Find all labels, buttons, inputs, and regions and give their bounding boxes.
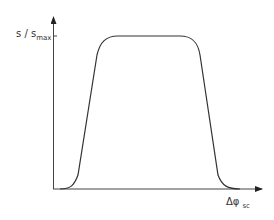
y-axis-label: s / smax [16, 28, 51, 39]
y-label-sub: max [36, 34, 51, 42]
diagram: s / smax Δφsc [0, 0, 274, 220]
y-label-main: s / s [16, 28, 36, 39]
x-axis-label: Δφsc [226, 196, 250, 207]
x-label-main: Δφ [226, 196, 239, 207]
x-label-sub: sc [242, 202, 250, 210]
response-curve [60, 36, 240, 189]
